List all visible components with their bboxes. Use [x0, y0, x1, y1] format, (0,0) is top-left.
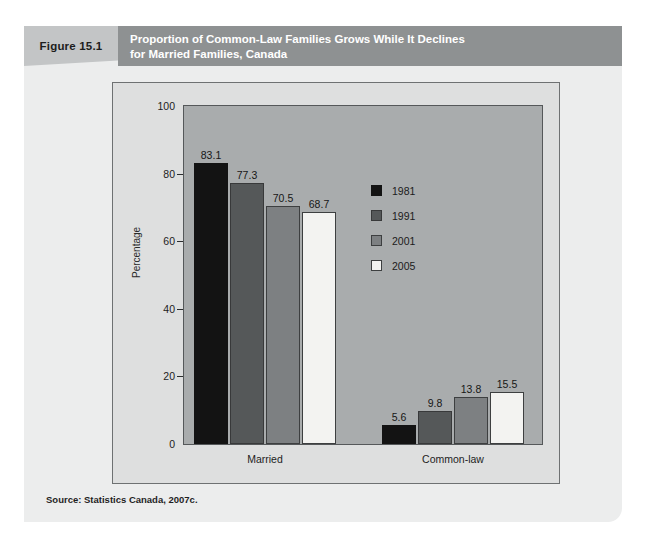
bar-common-law-1981: 5.6 — [382, 425, 416, 444]
x-group-label: Common-law — [422, 453, 484, 465]
legend-swatch-icon — [371, 260, 382, 271]
bar-value-label: 15.5 — [497, 378, 517, 390]
figure-card: Figure 15.1 Proportion of Common-Law Fam… — [24, 26, 622, 522]
y-tick-mark — [177, 376, 183, 377]
bar-married-2005: 68.7 — [302, 212, 336, 444]
y-tick-label: 40 — [113, 303, 182, 315]
bar-married-2001: 70.5 — [266, 206, 300, 444]
figure-title-line-1: Proportion of Common-Law Families Grows … — [130, 32, 622, 47]
bar-value-label: 77.3 — [237, 169, 257, 181]
figure-title-line-2: for Married Families, Canada — [130, 47, 622, 62]
y-tick-mark — [177, 174, 183, 175]
y-tick-label: 0 — [113, 438, 182, 450]
bar-common-law-2001: 13.8 — [454, 397, 488, 444]
legend-label: 2001 — [392, 235, 415, 247]
legend-item-1981[interactable]: 1981 — [371, 178, 415, 203]
bar-value-label: 83.1 — [201, 149, 221, 161]
y-tick-label: 100 — [113, 100, 182, 112]
figure-source: Source: Statistics Canada, 2007c. — [46, 494, 198, 505]
chart-frame: Percentage 83.177.370.568.7Married5.69.8… — [112, 82, 560, 484]
y-tick-mark — [177, 309, 183, 310]
bar-value-label: 68.7 — [309, 198, 329, 210]
legend-swatch-icon — [371, 235, 382, 246]
figure-number-label: Figure 15.1 — [24, 26, 118, 66]
legend-label: 1981 — [392, 185, 415, 197]
plot-inner: 83.177.370.568.7Married5.69.813.815.5Com… — [184, 106, 542, 444]
legend-label: 2005 — [392, 260, 415, 272]
y-tick-mark — [177, 241, 183, 242]
plot-area: 83.177.370.568.7Married5.69.813.815.5Com… — [183, 105, 543, 445]
bar-married-1991: 77.3 — [230, 183, 264, 444]
figure-header: Figure 15.1 Proportion of Common-Law Fam… — [24, 26, 622, 66]
y-tick-label: 80 — [113, 168, 182, 180]
x-group-label: Married — [247, 453, 283, 465]
bar-value-label: 70.5 — [273, 192, 293, 204]
legend-label: 1991 — [392, 210, 415, 222]
bar-value-label: 13.8 — [461, 383, 481, 395]
bar-common-law-2005: 15.5 — [490, 392, 524, 444]
bar-value-label: 5.6 — [392, 411, 407, 423]
chart-legend: 1981199120012005 — [371, 178, 415, 278]
legend-item-1991[interactable]: 1991 — [371, 203, 415, 228]
y-tick-label: 20 — [113, 370, 182, 382]
y-tick-label: 60 — [113, 235, 182, 247]
legend-item-2001[interactable]: 2001 — [371, 228, 415, 253]
bar-married-1981: 83.1 — [194, 163, 228, 444]
legend-swatch-icon — [371, 210, 382, 221]
bar-value-label: 9.8 — [428, 397, 443, 409]
bar-common-law-1991: 9.8 — [418, 411, 452, 444]
legend-item-2005[interactable]: 2005 — [371, 253, 415, 278]
figure-title: Proportion of Common-Law Families Grows … — [118, 26, 622, 66]
legend-swatch-icon — [371, 185, 382, 196]
